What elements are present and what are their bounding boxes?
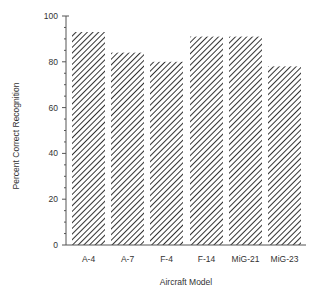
bar-mig-21 <box>229 37 262 245</box>
x-tick-label: F-14 <box>198 254 216 264</box>
y-axis-title: Percent Correct Recognition <box>11 82 21 189</box>
y-tick-label: 60 <box>49 103 59 113</box>
bar-a-7 <box>111 53 144 245</box>
x-tick-label: A-7 <box>121 254 135 264</box>
bar-chart: A-4A-7F-4F-14MiG-21MiG-23020406080100Air… <box>0 0 317 293</box>
x-tick-label: A-4 <box>82 254 96 264</box>
y-tick-label: 0 <box>53 240 58 250</box>
bar-f-4 <box>150 62 183 245</box>
y-tick-label: 20 <box>49 194 59 204</box>
y-tick-label: 100 <box>44 11 58 21</box>
bars-group <box>72 32 301 245</box>
x-axis-title: Aircraft Model <box>160 277 213 287</box>
x-tick-label: F-4 <box>160 254 173 264</box>
bar-mig-23 <box>268 66 301 245</box>
y-tick-label: 80 <box>49 57 59 67</box>
bar-f-14 <box>190 37 223 245</box>
x-tick-label: MiG-21 <box>232 254 260 264</box>
y-tick-label: 40 <box>49 148 59 158</box>
x-tick-label: MiG-23 <box>271 254 299 264</box>
bar-a-4 <box>72 32 105 245</box>
